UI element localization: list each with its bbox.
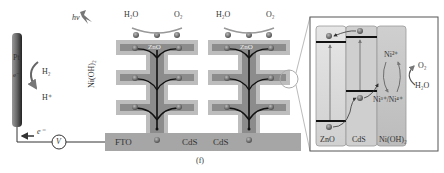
- fto-substrate: [105, 133, 301, 151]
- cds-label-left: CdS: [182, 138, 198, 147]
- diagram-graphics: [0, 0, 444, 173]
- ni2-label: Ni²⁺: [384, 51, 398, 59]
- o2-band-label: O₂: [418, 62, 427, 70]
- band-col-cds: CdS: [352, 136, 366, 144]
- h2-label: H₂: [42, 68, 51, 76]
- circuit-wire-left: [17, 127, 52, 142]
- h2-evolution-arrow: [31, 62, 38, 88]
- h2o-band-label: H₂O: [415, 82, 429, 90]
- light-label: hv: [72, 14, 80, 22]
- zno-label-left: ZnO: [148, 44, 161, 51]
- light-bolt-icon: [80, 10, 92, 24]
- h2o-label-right: H₂O: [216, 11, 230, 19]
- cds-label-right: CdS: [213, 138, 229, 147]
- nioh2-side-label: Ni(OH)₂: [88, 60, 96, 88]
- fto-label: FTO: [115, 138, 132, 147]
- band-col-zno: ZnO: [320, 136, 335, 144]
- pt-electrode: [12, 33, 22, 127]
- zno-label-right: ZnO: [240, 44, 253, 51]
- figure-caption: (f): [196, 157, 204, 165]
- h2o-label-left: H₂O: [124, 11, 138, 19]
- band-col-nioh2: Ni(OH)₂: [379, 136, 407, 144]
- h-plus-label: H⁺: [42, 94, 52, 102]
- voltmeter-label: V: [56, 138, 61, 146]
- pt-label: Pt: [13, 54, 20, 62]
- pt-electron-label: e⁻: [13, 72, 20, 79]
- o2-label-left: O₂: [174, 11, 183, 19]
- circuit-electron-label: e⁻: [37, 128, 45, 136]
- ni3-ni4-label: Ni³⁺/Ni⁴⁺: [373, 96, 403, 104]
- o2-label-right: O₂: [266, 11, 275, 19]
- zoom-lines: [296, 17, 310, 151]
